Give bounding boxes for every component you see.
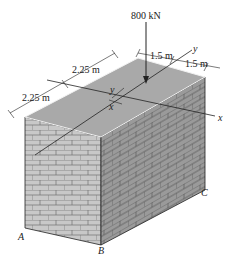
x-axis-label: x: [217, 112, 223, 123]
point-A-label: A: [17, 231, 25, 242]
load-label: 800 kN: [131, 10, 161, 21]
brick-pier-diagram: y x 800 kN y x 2.25 m 2.25 m 1.5 m 1.5 m…: [0, 0, 233, 263]
point-C-label: C: [201, 187, 208, 198]
dim-right-inner: 1.5 m: [150, 50, 173, 61]
y-offset-label: y: [109, 84, 115, 95]
y-axis-label: y: [192, 43, 198, 54]
x-offset-label: x: [108, 101, 114, 112]
dim-left-lower: 2.25 m: [22, 92, 50, 103]
point-B-label: B: [98, 245, 104, 256]
dim-left-upper: 2.25 m: [72, 64, 100, 75]
dim-right-outer: 1.5 m: [185, 58, 208, 69]
